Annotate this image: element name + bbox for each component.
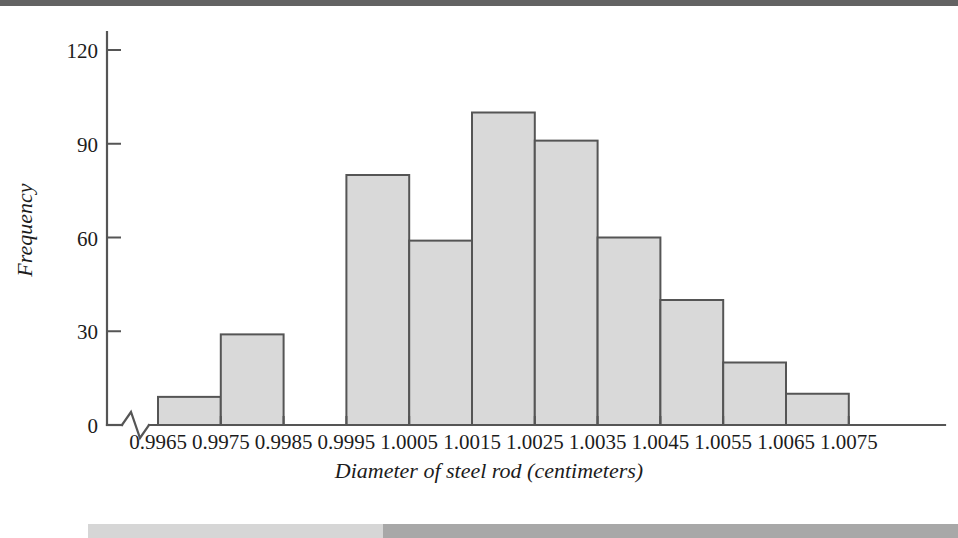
histogram-bar [409,241,472,425]
histogram-bar [535,141,598,425]
histogram-svg: 0306090120 0.99650.99750.99850.99951.000… [0,0,958,520]
page-root: 0306090120 0.99650.99750.99850.99951.000… [0,0,958,538]
histogram-bar [346,175,409,425]
histogram-bar [158,397,221,425]
x-axis-tick-label: 0.9965 [129,430,187,454]
histogram-figure: 0306090120 0.99650.99750.99850.99951.000… [0,0,958,520]
x-axis-tick-label: 0.9985 [255,430,313,454]
histogram-bar [598,238,661,426]
x-axis-tick-label: 1.0005 [380,430,438,454]
x-axis-tick-label: 0.9975 [192,430,250,454]
x-axis-tick-label: 1.0055 [694,430,752,454]
y-axis-ticks: 0306090120 [67,39,122,438]
scan-artifact-bottom-strip-light [88,524,383,538]
y-axis-tick-label: 120 [67,39,99,63]
y-axis-tick-label: 30 [77,320,98,344]
histogram-bar [221,334,284,425]
x-axis-tick-labels: 0.99650.99750.99850.99951.00051.00151.00… [129,430,878,454]
histogram-bar [723,363,786,426]
histogram-bar [786,394,849,425]
x-axis-tick-label: 1.0065 [757,430,815,454]
y-axis-group: 0306090120 [67,32,122,438]
y-axis-title: Frequency [12,183,37,277]
x-axis-title: Diameter of steel rod (centimeters) [334,458,643,483]
y-axis-tick-label: 0 [88,414,99,438]
x-axis-tick-label: 0.9995 [318,430,376,454]
y-axis-tick-label: 60 [77,227,98,251]
x-axis-tick-label: 1.0025 [506,430,564,454]
x-axis-tick-label: 1.0015 [443,430,501,454]
scan-artifact-bottom-strip-dark [383,524,958,538]
x-axis-tick-label: 1.0035 [569,430,627,454]
histogram-bar [472,113,535,426]
y-axis-tick-label: 90 [77,133,98,157]
x-axis-tick-label: 1.0075 [820,430,878,454]
x-axis-tick-label: 1.0045 [632,430,690,454]
bars-group [158,113,849,426]
histogram-bar [660,300,723,425]
